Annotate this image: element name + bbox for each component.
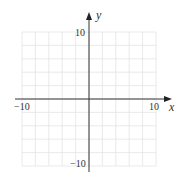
x-axis-label: x bbox=[169, 101, 174, 113]
y-axis-label: y bbox=[96, 9, 101, 21]
y-max-tick-label: 10 bbox=[75, 28, 85, 38]
y-min-tick-label: −10 bbox=[70, 159, 86, 169]
y-axis-arrow-icon bbox=[86, 12, 92, 20]
x-min-tick-label: −10 bbox=[14, 102, 30, 112]
coordinate-plane bbox=[0, 0, 184, 184]
x-max-tick-label: 10 bbox=[149, 102, 159, 112]
